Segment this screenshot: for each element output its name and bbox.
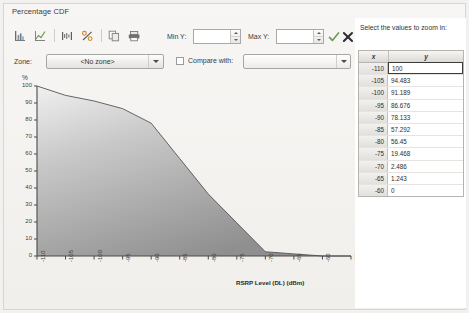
check-icon[interactable]	[327, 29, 341, 44]
cell-x: -60	[359, 185, 388, 196]
values-table: x y -110100-10594.483-10091.189-9586.676…	[358, 50, 464, 197]
cell-x: -80	[359, 136, 388, 147]
cell-y[interactable]: 1.243	[388, 173, 463, 184]
application-window: Percentage CDF	[0, 0, 469, 313]
y-axis-tick-label: 0	[18, 252, 32, 258]
page-title: Percentage CDF	[12, 7, 69, 16]
close-icon[interactable]	[341, 29, 355, 44]
x-axis-tick-label: -70	[268, 253, 274, 262]
cell-x: -105	[359, 75, 388, 86]
table-row[interactable]: -7519.468	[359, 148, 463, 160]
x-axis-tick-label: -110	[40, 250, 46, 262]
y-axis-tick-label: 80	[18, 116, 32, 122]
max-y-spin-buttons[interactable]	[313, 30, 323, 43]
cell-y[interactable]: 86.676	[388, 100, 463, 111]
max-y-label: Max Y:	[248, 33, 269, 40]
min-y-stepper[interactable]	[193, 29, 241, 44]
table-body: -110100-10594.483-10091.189-9586.676-907…	[359, 63, 463, 196]
zoom-values-title: Select the values to zoom in:	[360, 24, 465, 31]
toolbar-separator	[101, 29, 102, 42]
cell-x: -65	[359, 173, 388, 184]
cell-y[interactable]: 19.468	[388, 148, 463, 159]
chevron-down-icon[interactable]	[336, 55, 350, 68]
min-y-label: Min Y:	[167, 33, 186, 40]
x-axis-tick-label: -60	[325, 253, 331, 262]
line-chart-icon[interactable]	[31, 26, 50, 45]
table-row[interactable]: -8056.45	[359, 136, 463, 148]
min-y-spin-buttons[interactable]	[230, 30, 240, 43]
y-axis-tick-label: 10	[18, 235, 32, 241]
cell-x: -85	[359, 124, 388, 135]
x-axis-tick-label: -105	[68, 250, 74, 262]
max-y-input[interactable]	[277, 30, 313, 43]
bar-chart-icon[interactable]	[11, 26, 30, 45]
zone-select[interactable]: <No zone>	[46, 54, 164, 69]
cell-x: -90	[359, 112, 388, 123]
y-axis-tick-label: 100	[18, 82, 32, 88]
cell-y[interactable]: 91.189	[388, 87, 463, 98]
zone-selected-value: <No zone>	[47, 58, 148, 65]
compare-with-label: Compare with:	[188, 57, 233, 64]
y-axis-tick-label: 20	[18, 218, 32, 224]
x-axis-tick-label: -75	[239, 253, 245, 262]
zone-label: Zone:	[14, 58, 32, 65]
y-axis-tick-label: 90	[18, 99, 32, 105]
table-row[interactable]: -651.243	[359, 173, 463, 185]
cell-x: -100	[359, 87, 388, 98]
histogram-icon[interactable]	[58, 26, 77, 45]
table-row[interactable]: -8557.292	[359, 124, 463, 136]
cell-x: -75	[359, 148, 388, 159]
y-axis-tick-label: 70	[18, 133, 32, 139]
cell-y[interactable]: 2.486	[388, 161, 463, 172]
x-axis-title: RSRP Level (DL) (dBm)	[236, 279, 304, 286]
table-row[interactable]: -10594.483	[359, 75, 463, 87]
cell-x: -70	[359, 161, 388, 172]
cell-x: -110	[359, 63, 388, 74]
column-header-y: y	[389, 51, 463, 62]
chevron-down-icon[interactable]	[148, 55, 163, 68]
x-axis-tick-label: -65	[296, 253, 302, 262]
cell-y[interactable]: 78.133	[388, 112, 463, 123]
y-axis-tick-label: 40	[18, 184, 32, 190]
min-y-spin-down[interactable]	[231, 36, 240, 43]
cell-y[interactable]: 57.292	[388, 124, 463, 135]
percent-icon[interactable]	[78, 26, 97, 45]
x-axis-tick-label: -95	[125, 253, 131, 262]
table-row[interactable]: -10091.189	[359, 87, 463, 99]
compare-with-select[interactable]	[243, 54, 351, 69]
cell-y[interactable]: 56.45	[388, 136, 463, 147]
y-axis-tick-label: 60	[18, 150, 32, 156]
x-axis-tick-label: -100	[97, 250, 103, 262]
cell-y[interactable]: 94.483	[388, 75, 463, 86]
x-axis-tick-label: -90	[154, 253, 160, 262]
x-axis-tick-label: -85	[182, 253, 188, 262]
table-row[interactable]: -9586.676	[359, 100, 463, 112]
toolbar-separator	[54, 29, 55, 42]
chart-toolbar	[11, 26, 145, 45]
compare-with-checkbox[interactable]	[176, 57, 184, 65]
max-y-spin-down[interactable]	[314, 36, 323, 43]
table-row[interactable]: -702.486	[359, 161, 463, 173]
x-axis-tick-label: -80	[211, 253, 217, 262]
cell-x: -95	[359, 100, 388, 111]
table-row[interactable]: -9078.133	[359, 112, 463, 124]
table-row[interactable]: -110100	[359, 63, 463, 75]
column-header-x: x	[359, 51, 389, 62]
cell-y[interactable]: 100	[388, 62, 463, 74]
min-y-input[interactable]	[194, 30, 230, 43]
save-icon[interactable]	[125, 26, 144, 45]
table-row[interactable]: -600	[359, 185, 463, 196]
chart-plot	[10, 74, 354, 302]
copy-icon[interactable]	[105, 26, 124, 45]
y-axis-tick-label: 50	[18, 167, 32, 173]
cell-y[interactable]: 0	[388, 185, 463, 196]
cdf-chart: % RSRP Level (DL) (dBm) 0102030405060708…	[10, 74, 354, 302]
y-axis-tick-label: 30	[18, 201, 32, 207]
max-y-stepper[interactable]	[276, 29, 324, 44]
